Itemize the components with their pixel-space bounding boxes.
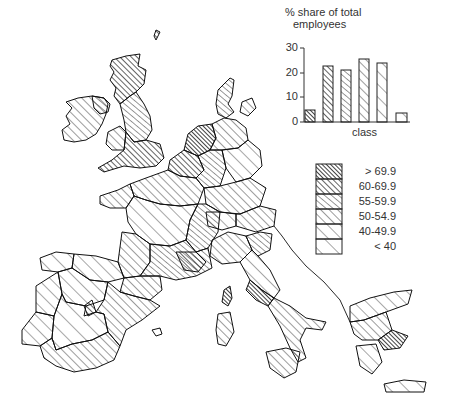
inset-bar-chart bbox=[300, 48, 410, 122]
region-scotland bbox=[110, 54, 146, 104]
bar-gt-69.9 bbox=[305, 110, 315, 122]
bar-50-54.9 bbox=[359, 59, 369, 122]
region-shetland bbox=[154, 30, 160, 40]
ylabel-line-2: employees bbox=[285, 18, 361, 30]
ylabel-line-1: % share of total bbox=[285, 6, 361, 18]
bar-60-69.9 bbox=[323, 66, 333, 122]
region-wales bbox=[106, 126, 126, 150]
bar-40-49.9 bbox=[377, 63, 387, 122]
region-peloponnese bbox=[356, 344, 382, 374]
region-sicily bbox=[266, 348, 300, 378]
region-sardinia bbox=[216, 312, 234, 346]
legend-label-lt-40: < 40 bbox=[346, 240, 396, 252]
tick-20: 20 bbox=[282, 66, 298, 78]
region-denmark-islands bbox=[240, 98, 256, 116]
region-denmark-jutland bbox=[216, 78, 234, 118]
region-balearics bbox=[152, 328, 162, 336]
bar-lt-40 bbox=[396, 113, 407, 122]
legend-label-50-54.9: 50-54.9 bbox=[346, 210, 396, 222]
tick-0: 0 bbox=[282, 115, 298, 127]
inset-y-axis-label: % share of total employees bbox=[285, 6, 361, 30]
europe-choropleth-map bbox=[0, 0, 466, 403]
bar-55-59.9 bbox=[341, 70, 351, 122]
inset-x-axis-label: class bbox=[352, 126, 377, 138]
legend-swatches bbox=[316, 164, 342, 254]
tick-10: 10 bbox=[282, 90, 298, 102]
legend-label-40-49.9: 40-49.9 bbox=[346, 225, 396, 237]
tick-30: 30 bbox=[282, 41, 298, 53]
region-crete bbox=[384, 380, 426, 392]
legend-label-60-69.9: 60-69.9 bbox=[346, 180, 396, 192]
region-corsica bbox=[222, 286, 232, 306]
legend-label-gt-69.9: > 69.9 bbox=[346, 165, 396, 177]
legend-label-55-59.9: 55-59.9 bbox=[346, 195, 396, 207]
